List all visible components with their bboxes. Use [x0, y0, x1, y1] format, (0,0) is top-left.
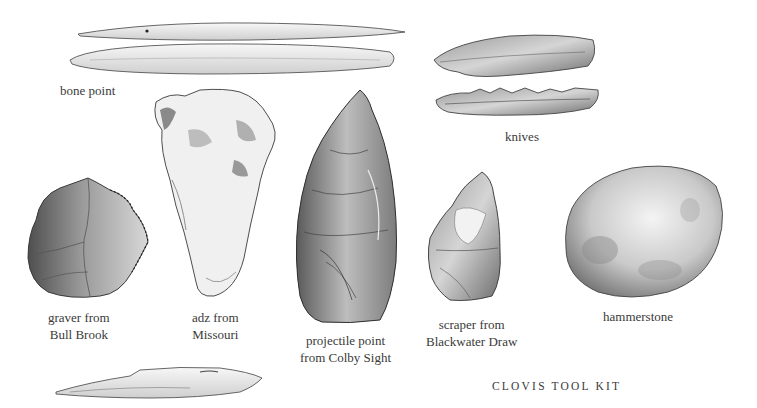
projectile-point-drawing: [296, 90, 396, 323]
adz-drawing: [155, 89, 275, 296]
plate-title: CLOVIS TOOL KIT: [492, 380, 621, 392]
label-scraper: scraper from Blackwater Draw: [426, 316, 517, 350]
label-hammerstone: hammerstone: [603, 308, 673, 325]
knives-drawing: [434, 35, 598, 115]
label-knives: knives: [505, 128, 539, 145]
label-bone-point: bone point: [60, 82, 115, 99]
scraper-drawing: [428, 172, 500, 301]
bone-point-drawing: [70, 23, 405, 74]
label-projectile-point: projectile point from Colby Sight: [300, 332, 391, 366]
label-adz: adz from Missouri: [192, 309, 239, 343]
hammerstone-drawing: [566, 166, 723, 297]
label-graver: graver from Bull Brook: [48, 309, 110, 343]
bone-tool-bottom-drawing: [56, 367, 262, 398]
graver-drawing: [28, 178, 148, 297]
